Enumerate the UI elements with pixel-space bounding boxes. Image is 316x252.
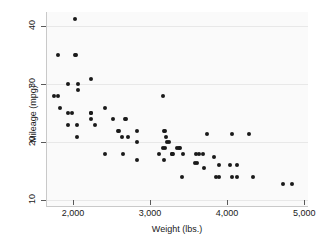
- data-point: [201, 152, 205, 156]
- x-tick-label-3000: 3,000: [128, 208, 172, 218]
- data-point: [56, 94, 60, 98]
- data-point: [217, 163, 221, 167]
- data-point: [202, 166, 206, 170]
- data-point: [74, 53, 78, 57]
- data-point: [66, 123, 70, 127]
- data-point: [281, 182, 285, 186]
- data-point: [66, 82, 70, 86]
- data-point: [181, 152, 185, 156]
- scatter-plot-figure: 10203040 2,0003,0004,0005,000 Mileage (m…: [0, 0, 316, 252]
- x-tick-label-4000: 4,000: [205, 208, 249, 218]
- data-point: [228, 163, 232, 167]
- data-point: [161, 94, 165, 98]
- y-axis-line: [46, 12, 47, 206]
- data-point: [178, 146, 182, 150]
- data-point: [163, 129, 167, 133]
- data-point: [120, 135, 124, 139]
- data-point: [66, 111, 70, 115]
- data-point: [230, 132, 234, 136]
- x-axis-title: Weight (lbs.): [46, 224, 308, 234]
- data-point: [103, 106, 107, 110]
- data-point: [73, 17, 77, 21]
- data-point: [195, 161, 199, 165]
- y-tick-40: [41, 26, 46, 27]
- data-point: [56, 53, 60, 57]
- y-tick-20: [41, 142, 46, 143]
- data-point: [217, 175, 221, 179]
- y-tick-label-40: 40: [27, 17, 37, 33]
- data-point: [247, 132, 251, 136]
- gridline-y-30: [46, 84, 308, 85]
- data-point: [75, 135, 79, 139]
- data-point: [212, 155, 216, 159]
- gridline-y-40: [46, 26, 308, 27]
- data-point: [135, 140, 139, 144]
- data-point: [180, 175, 184, 179]
- data-point: [162, 158, 166, 162]
- data-point: [89, 77, 93, 81]
- data-point: [75, 123, 79, 127]
- x-tick-label-5000: 5,000: [282, 208, 316, 218]
- gridline-y-20: [46, 142, 308, 143]
- data-point: [89, 117, 93, 121]
- x-tick-5000: [304, 200, 305, 205]
- data-point: [205, 132, 209, 136]
- data-point: [117, 129, 121, 133]
- data-point: [170, 152, 174, 156]
- data-point: [135, 129, 139, 133]
- data-point: [58, 106, 62, 110]
- x-tick-4000: [227, 200, 228, 205]
- data-point: [126, 135, 130, 139]
- data-point: [121, 152, 125, 156]
- data-point: [167, 140, 171, 144]
- gridline-y-10: [46, 200, 308, 201]
- data-point: [157, 152, 161, 156]
- x-tick-3000: [150, 200, 151, 205]
- data-point: [235, 175, 239, 179]
- data-point: [163, 146, 167, 150]
- plot-area: [46, 12, 308, 206]
- data-point: [89, 111, 93, 115]
- data-point: [197, 152, 201, 156]
- x-tick-2000: [73, 200, 74, 205]
- y-axis-title: Mileage (mpg): [28, 54, 38, 174]
- data-point: [290, 182, 294, 186]
- y-tick-10: [41, 200, 46, 201]
- data-point: [70, 111, 74, 115]
- y-tick-30: [41, 84, 46, 85]
- x-axis-line: [46, 206, 308, 207]
- data-point: [251, 175, 255, 179]
- data-point: [124, 117, 128, 121]
- data-point: [230, 175, 234, 179]
- data-point: [76, 82, 80, 86]
- y-tick-label-10: 10: [27, 191, 37, 207]
- data-point: [235, 163, 239, 167]
- data-point: [164, 135, 168, 139]
- data-point: [76, 88, 80, 92]
- data-point: [103, 152, 107, 156]
- data-point: [135, 158, 139, 162]
- data-point: [93, 123, 97, 127]
- data-point: [111, 117, 115, 121]
- x-tick-label-2000: 2,000: [51, 208, 95, 218]
